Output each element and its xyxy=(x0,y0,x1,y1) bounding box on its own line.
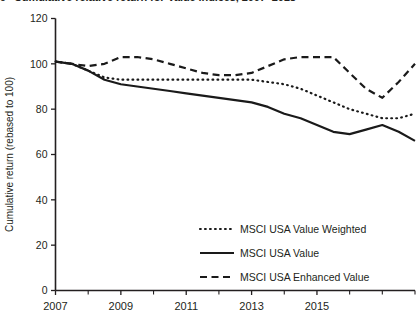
x-tick-label: 2009 xyxy=(109,300,133,312)
legend-label: MSCI USA Value Weighted xyxy=(240,223,366,235)
legend-label: MSCI USA Value xyxy=(240,247,319,259)
x-tick-label: 2007 xyxy=(43,300,67,312)
x-tick-label: 2011 xyxy=(174,300,198,312)
y-tick-label: 80 xyxy=(36,103,48,115)
series-line-solid xyxy=(56,62,416,141)
chart-legend[interactable]: MSCI USA Value WeightedMSCI USA ValueMSC… xyxy=(200,223,370,283)
series-line-dotted xyxy=(56,62,416,119)
x-tick-label: 2013 xyxy=(239,300,263,312)
data-series xyxy=(56,57,416,141)
x-tick-label: 2015 xyxy=(305,300,329,312)
legend-label: MSCI USA Enhanced Value xyxy=(240,271,370,283)
axes: 020406080100120Cumulative return (rebase… xyxy=(4,12,415,311)
y-tick-label: 60 xyxy=(36,148,48,160)
line-chart-plot: 020406080100120Cumulative return (rebase… xyxy=(0,0,419,320)
y-tick-label: 20 xyxy=(36,239,48,251)
y-tick-label: 0 xyxy=(42,284,48,296)
y-axis-title: Cumulative return (rebased to 100) xyxy=(4,77,15,232)
series-line-dashed xyxy=(56,57,416,98)
y-tick-label: 100 xyxy=(30,58,48,70)
chart-figure: 9 Cumulative relative return for Value i… xyxy=(0,0,419,320)
y-tick-label: 40 xyxy=(36,194,48,206)
y-tick-label: 120 xyxy=(30,12,48,24)
